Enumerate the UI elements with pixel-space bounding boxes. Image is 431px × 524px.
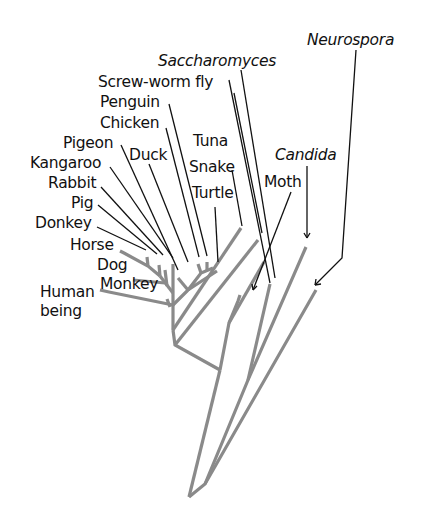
branch-monkey [167,299,170,307]
branch-pig [159,265,160,276]
label-pig: Pig [71,194,93,212]
leader-kangaroo [110,167,173,258]
label-moth: Moth [264,173,302,191]
tree-branches [100,228,316,497]
label-monkey: Monkey [100,275,158,293]
label-chicken: Chicken [100,114,159,132]
label-neurospora: Neurospora [307,31,394,49]
label-saccharomyces: Saccharomyces [158,52,276,70]
label-horse: Horse [70,236,114,254]
branch-bird-node [178,278,188,290]
branch-saccharomyces [248,284,270,380]
taxon-labels: Neurospora Saccharomyces Screw-worm fly … [30,31,394,320]
label-snake: Snake [189,158,235,176]
leader-penguin [169,104,207,256]
label-duck: Duck [129,146,167,164]
label-tuna: Tuna [192,132,228,150]
label-candida: Candida [275,146,337,164]
branch-root-fungi [189,290,316,497]
label-human-line1: Human [40,283,94,301]
label-dog: Dog [97,256,127,274]
label-donkey: Donkey [35,214,92,232]
leader-turtle [215,207,218,262]
label-pigeon: Pigeon [63,134,113,152]
label-human-line2: being [40,302,82,320]
branch-chicken [198,264,201,273]
label-penguin: Penguin [100,93,160,111]
label-kangaroo: Kangaroo [30,154,101,172]
label-turtle: Turtle [191,184,233,202]
label-rabbit: Rabbit [48,174,96,192]
leader-duck [149,164,188,262]
branch-rabbit [165,270,167,286]
branch-root-left [189,370,220,497]
branch-vertebrate-stem [173,330,220,370]
leader-snake [232,170,242,226]
label-screwworm: Screw-worm fly [98,73,213,91]
phylogenetic-tree: Neurospora Saccharomyces Screw-worm fly … [0,0,431,524]
branch-donkey [147,257,148,266]
leader-neurospora [315,50,356,285]
